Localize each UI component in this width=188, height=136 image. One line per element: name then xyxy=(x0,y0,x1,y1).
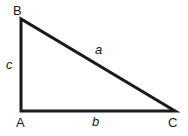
triangle-shape xyxy=(21,19,175,111)
vertex-label-b: B xyxy=(13,3,22,18)
vertex-label-c: C xyxy=(168,115,177,130)
vertex-label-a: A xyxy=(16,115,25,130)
triangle-diagram: B A C c a b xyxy=(0,0,188,136)
side-label-c: c xyxy=(6,57,13,72)
side-label-b: b xyxy=(92,114,99,129)
side-label-a: a xyxy=(95,42,102,57)
